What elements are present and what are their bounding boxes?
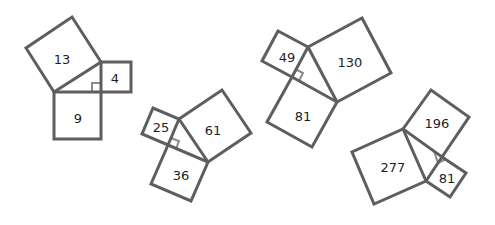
square-label: 61 [205, 123, 222, 138]
square-label: 81 [295, 109, 312, 124]
square-label: 277 [381, 160, 406, 175]
square-label: 36 [173, 168, 190, 183]
square-label: 13 [54, 52, 71, 67]
pythagorean-squares-diagram: 13 4 9 25 61 36 49 130 81 196 81 277 [0, 0, 495, 225]
square-label: 49 [279, 50, 296, 65]
figure-4: 196 81 277 [352, 90, 469, 204]
square-label: 196 [425, 116, 450, 131]
figure-2: 25 61 36 [142, 90, 251, 201]
figure-1: 13 4 9 [26, 17, 131, 139]
figure-3: 49 130 81 [262, 18, 391, 147]
square-label: 4 [111, 71, 119, 86]
square-label: 9 [74, 111, 82, 126]
square-label: 81 [439, 171, 456, 186]
square-label: 130 [338, 55, 363, 70]
square-label: 25 [153, 120, 170, 135]
